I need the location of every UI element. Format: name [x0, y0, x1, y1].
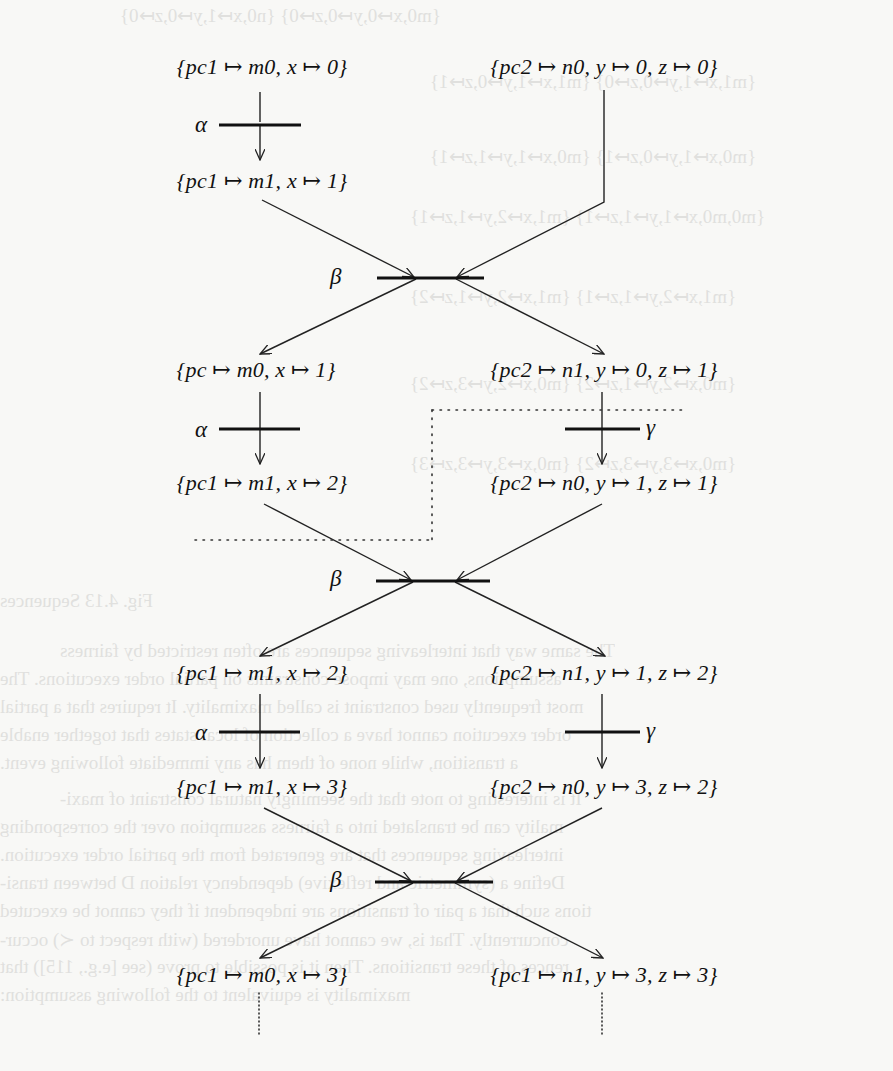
- arc-s0b-t2: [457, 90, 604, 277]
- transition-label-beta: β: [330, 264, 341, 290]
- state-node: {pc2 ↦ n0, y ↦ 1, z ↦ 1}: [491, 470, 718, 496]
- state-node: {pc2 ↦ n1, y ↦ 0, z ↦ 1}: [491, 357, 718, 383]
- state-node: {pc2 ↦ n0, y ↦ 3, z ↦ 2}: [491, 774, 718, 800]
- arc-t5-s4b: [455, 582, 605, 656]
- transition-label-alpha: α: [195, 417, 207, 443]
- transition-bars: [219, 125, 640, 882]
- state-node: {pc2 ↦ n0, y ↦ 0, z ↦ 0}: [491, 54, 718, 80]
- transition-label-alpha: α: [195, 112, 207, 138]
- transition-label-beta: β: [330, 867, 341, 893]
- arc-s5b-t8: [457, 808, 602, 881]
- transition-label-gamma: γ: [646, 718, 655, 744]
- diagram-canvas: [0, 0, 893, 1071]
- state-node: {pc1 ↦ m1, x ↦ 2}: [177, 660, 347, 686]
- arc-t5-s4a: [260, 582, 413, 656]
- state-node: {pc1 ↦ n1, y ↦ 3, z ↦ 3}: [491, 962, 718, 988]
- arc-t8-s6a: [260, 883, 413, 958]
- arc-t8-s6b: [455, 883, 603, 958]
- state-node: {pc1 ↦ m1, x ↦ 1}: [177, 168, 347, 194]
- arc-s3b-t5: [457, 504, 602, 580]
- state-node: {pc1 ↦ m0, x ↦ 3}: [177, 962, 347, 988]
- transition-label-alpha: α: [195, 720, 207, 746]
- continuation-dots: [259, 993, 602, 1036]
- transition-label-beta: β: [330, 566, 341, 592]
- state-node: {pc1 ↦ m0, x ↦ 0}: [177, 54, 347, 80]
- arc-t2-s2a: [260, 279, 416, 354]
- transition-label-gamma: γ: [646, 415, 655, 441]
- state-node: {pc ↦ m0, x ↦ 1}: [176, 357, 335, 383]
- arc-t2-s2b: [456, 279, 604, 354]
- state-node: {pc1 ↦ m1, x ↦ 3}: [177, 774, 347, 800]
- state-node: {pc1 ↦ m1, x ↦ 2}: [177, 470, 347, 496]
- state-node: {pc2 ↦ n1, y ↦ 1, z ↦ 2}: [491, 660, 718, 686]
